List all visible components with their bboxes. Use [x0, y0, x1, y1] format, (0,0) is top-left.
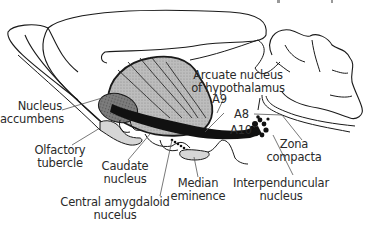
label-line: accumbens [0, 113, 62, 126]
label-line: of hypothalamus [188, 82, 288, 95]
label-median-eminence: Median eminence [168, 177, 228, 203]
label-line: nucelus [60, 209, 170, 222]
label-line: nucleus [228, 190, 334, 203]
label-line: nucleus [98, 173, 152, 186]
label-zona-compacta: Zona compacta [262, 138, 326, 164]
cropped-text-remnant [277, 0, 333, 3]
label-arcuate-nucleus: Arcuate nucleus of hypothalamus [188, 69, 288, 95]
label-central-amygdaloid: Central amygdaloid nucelus [60, 196, 170, 222]
label-a9: A9 [212, 93, 227, 106]
label-line: tubercle [30, 157, 90, 170]
label-line: compacta [262, 151, 326, 164]
label-olfactory-tubercle: Olfactory tubercle [30, 144, 90, 170]
label-line: eminence [168, 190, 228, 203]
label-nucleus-accumbens: Nucleus accumbens [0, 100, 62, 126]
label-interpeduncular-nucleus: Interpenduncular nucleus [228, 177, 334, 203]
brain-diagram: Nucleus accumbens Olfactory tubercle Cau… [0, 0, 374, 227]
label-caudate-nucleus: Caudate nucleus [98, 160, 152, 186]
label-a8: A8 [234, 108, 249, 121]
label-a10: A10 [230, 124, 252, 137]
